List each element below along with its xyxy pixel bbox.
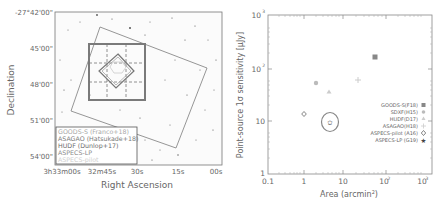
legend-square-marker xyxy=(422,103,426,107)
svg-text:10: 10 xyxy=(251,65,261,74)
area-tick-labels: 0.1 1 10 10 2 10 3 xyxy=(262,176,429,186)
legend-aspecs-pilot-a16: ASPECS-pilot (A16) xyxy=(371,130,419,137)
area-axis-label: Area (arcmin2) xyxy=(320,189,378,199)
point-aspecs-lp: ✩ xyxy=(327,119,333,127)
point-goods-s xyxy=(373,55,378,60)
svg-text:30s: 30s xyxy=(131,168,144,176)
sensitivity-tick-labels: 1 10 10 2 10 3 xyxy=(251,9,265,178)
sky-map-panel: GOODS-S (Franco+18) ASAGAO (Hatsukade+18… xyxy=(6,9,223,190)
legend-aspecs-pilot: ASPECS-pilot xyxy=(58,156,99,164)
legend-hudf-d17: HUDF(D17) xyxy=(390,116,418,122)
svg-text:15s: 15s xyxy=(172,168,185,176)
svg-text:54'00": 54'00" xyxy=(30,153,53,161)
svg-text:3: 3 xyxy=(262,9,265,14)
svg-text:3: 3 xyxy=(426,176,429,181)
svg-text:00s: 00s xyxy=(210,168,223,176)
svg-text:3h33m00s: 3h33m00s xyxy=(43,168,81,176)
ra-axis-label: Right Ascension xyxy=(101,180,173,190)
svg-text:0.1: 0.1 xyxy=(262,177,274,186)
sensitivity-plot: ✩ GOODS-S(F18) SDXF(H15) HUDF(D17) ASAGA… xyxy=(236,9,432,199)
svg-text:51'00": 51'00" xyxy=(30,117,53,125)
plot-frame xyxy=(268,15,432,174)
svg-text:-27°42'00": -27°42'00" xyxy=(15,9,53,17)
svg-text:48'00": 48'00" xyxy=(30,81,53,89)
legend-aspecs-lp-g19: ASPECS-LP (G19) xyxy=(375,137,418,143)
point-sdxf xyxy=(314,81,318,85)
svg-text:1: 1 xyxy=(302,177,307,186)
ra-tick-labels: 3h33m00s 32m45s 30s 15s 00s xyxy=(43,168,222,176)
legend-circle-marker xyxy=(422,110,426,114)
legend-goods-s-f18: GOODS-S(F18) xyxy=(381,102,418,108)
svg-text:10: 10 xyxy=(255,117,265,126)
sensitivity-axis-label: Point-source 1σ sensitivity [μJy] xyxy=(236,32,245,158)
svg-text:45'00": 45'00" xyxy=(30,45,53,53)
legend-sdxf-h15: SDXF(H15) xyxy=(391,109,418,115)
legend-aspecs-lp: ASPECS-LP xyxy=(58,149,92,156)
svg-text:2: 2 xyxy=(388,176,391,181)
svg-text:1: 1 xyxy=(260,169,265,178)
svg-text:2: 2 xyxy=(262,63,265,68)
legend-asagao: ASAGAO (Hatsukade+18) xyxy=(58,135,138,142)
svg-text:10: 10 xyxy=(338,177,348,186)
figure: GOODS-S (Franco+18) ASAGAO (Hatsukade+18… xyxy=(0,0,439,203)
dec-axis-label: Declination xyxy=(6,65,16,116)
legend-goods-s: GOODS-S (Franco+18) xyxy=(58,128,129,135)
svg-text:10: 10 xyxy=(251,11,261,20)
legend-star-marker: ★ xyxy=(421,137,427,145)
legend-asagao-h18: ASAGAO(H18) xyxy=(383,123,418,129)
dec-tick-labels: -27°42'00" 45'00" 48'00" 51'00" 54'00" xyxy=(15,9,53,161)
svg-text:32m45s: 32m45s xyxy=(88,168,117,176)
